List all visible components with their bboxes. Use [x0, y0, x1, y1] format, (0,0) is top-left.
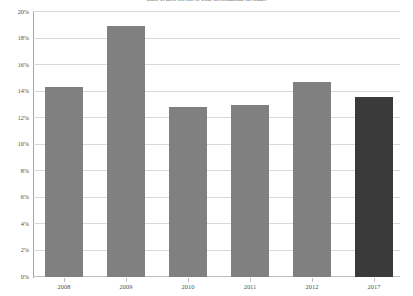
gridline: [33, 250, 400, 251]
y-tick-label: 4%: [1, 220, 29, 227]
y-tick-label: 12%: [1, 114, 29, 121]
gridline: [33, 117, 400, 118]
x-tick-label-2017: 2017: [344, 283, 404, 291]
y-tick-label: 14%: [1, 87, 29, 94]
x-tick: [126, 278, 127, 282]
gridline: [33, 223, 400, 224]
bar-chart: Ratio of Debt Service to Total Governmen…: [0, 0, 413, 296]
chart-title: Ratio of Debt Service to Total Governmen…: [0, 0, 413, 2]
y-tick-label: 8%: [1, 167, 29, 174]
bar-2010[interactable]: [169, 107, 207, 277]
bar-2008[interactable]: [45, 87, 83, 277]
bar-2017[interactable]: [355, 97, 393, 277]
x-tick: [250, 278, 251, 282]
x-tick: [312, 278, 313, 282]
gridline: [33, 197, 400, 198]
x-tick-label-2010: 2010: [158, 283, 218, 291]
x-tick-label-2008: 2008: [34, 283, 94, 291]
x-tick: [374, 278, 375, 282]
y-tick-label: 6%: [1, 193, 29, 200]
bar-2011[interactable]: [231, 105, 269, 277]
gridline: [33, 38, 400, 39]
x-tick-label-2011: 2011: [220, 283, 280, 291]
gridline: [33, 11, 400, 12]
x-axis-baseline: [33, 276, 400, 277]
bar-2012[interactable]: [293, 82, 331, 278]
gridline: [33, 91, 400, 92]
x-tick: [64, 278, 65, 282]
gridline: [33, 170, 400, 171]
y-tick-label: 18%: [1, 34, 29, 41]
x-tick-label-2009: 2009: [96, 283, 156, 291]
y-tick-label: 0%: [1, 273, 29, 280]
gridline: [33, 144, 400, 145]
y-tick-label: 16%: [1, 61, 29, 68]
x-tick-label-2012: 2012: [282, 283, 342, 291]
y-tick-label: 10%: [1, 140, 29, 147]
plot-area: [33, 11, 400, 277]
gridline: [33, 64, 400, 65]
y-tick-label: 20%: [1, 8, 29, 15]
y-tick-label: 2%: [1, 246, 29, 253]
x-tick: [188, 278, 189, 282]
bar-2009[interactable]: [107, 26, 145, 277]
